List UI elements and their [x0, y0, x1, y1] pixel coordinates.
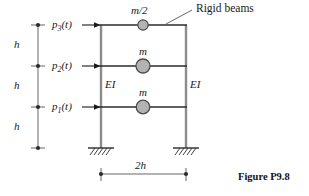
height-dot-top	[36, 23, 40, 27]
force-label-p3-suffix: (t)	[61, 18, 71, 30]
frame-diagram-svg	[0, 0, 309, 196]
span-dot-right	[184, 172, 188, 176]
support-right-hatching	[175, 148, 196, 155]
mass-bottom-circle	[136, 100, 150, 114]
mass-label-middle: m	[139, 46, 147, 57]
rigid-beams-label: Rigid beams	[196, 3, 254, 15]
masses-group	[136, 20, 150, 114]
mass-middle-circle	[136, 59, 150, 73]
ei-label-right: EI	[190, 79, 200, 90]
mass-label-bottom: m	[139, 87, 147, 98]
force-label-p1-suffix: (t)	[61, 100, 71, 112]
support-left-hatching	[90, 148, 111, 155]
height-dimension-group	[31, 23, 45, 150]
rigid-beams-leader-line	[166, 10, 192, 24]
force-label-p2-suffix: (t)	[61, 59, 71, 71]
mass-top-circle	[138, 20, 148, 30]
span-dimension-label: 2h	[135, 160, 146, 171]
height-label-top: h	[14, 39, 20, 50]
figure-caption: Figure P9.8	[238, 172, 290, 183]
height-label-bottom: h	[14, 121, 20, 132]
height-label-middle: h	[14, 80, 20, 91]
support-right-group	[173, 148, 199, 155]
ei-label-left: EI	[105, 79, 115, 90]
figure-container: p3(t) p2(t) p1(t) m/2 m m EI EI h h h 2h…	[0, 0, 309, 196]
force-arrows-group	[82, 25, 100, 107]
rigid-beams-leader-group	[166, 10, 192, 24]
force-label-p3: p3(t)	[52, 19, 72, 33]
height-dot-level2	[36, 105, 40, 109]
force-label-p1: p1(t)	[52, 101, 72, 115]
support-left-group	[88, 148, 114, 155]
height-dot-base	[36, 146, 40, 150]
span-dot-left	[99, 172, 103, 176]
force-label-p2: p2(t)	[52, 60, 72, 74]
mass-label-top: m/2	[131, 5, 148, 16]
height-dot-level3	[36, 64, 40, 68]
